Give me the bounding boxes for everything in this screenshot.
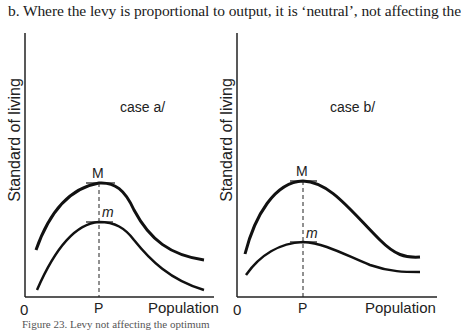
p-label: P bbox=[298, 300, 307, 316]
y-axis-label: Standard of living bbox=[218, 78, 235, 202]
label-m: m bbox=[102, 204, 114, 220]
curve-m bbox=[246, 242, 420, 275]
figure-caption: Figure 23. Levy not affecting the optimu… bbox=[22, 318, 210, 330]
x-axis-label: Population bbox=[148, 299, 219, 316]
label-M: M bbox=[296, 163, 308, 179]
curve-M bbox=[245, 181, 420, 257]
y-axis-label: Standard of living bbox=[6, 78, 23, 202]
p-label: P bbox=[94, 300, 103, 316]
x-axis-label: Population bbox=[365, 299, 436, 316]
label-M: M bbox=[92, 165, 104, 181]
curve-m bbox=[37, 222, 204, 290]
origin-label: 0 bbox=[20, 301, 28, 318]
case-label: case b/ bbox=[330, 99, 375, 115]
panel-case-a: Standard of living case a/ M m 0 P Popul… bbox=[6, 33, 219, 318]
case-label: case a/ bbox=[120, 99, 165, 115]
label-m: m bbox=[306, 225, 318, 241]
panel-case-b: Standard of living case b/ M m 0 P Popul… bbox=[218, 33, 437, 318]
origin-label: 0 bbox=[233, 301, 241, 318]
